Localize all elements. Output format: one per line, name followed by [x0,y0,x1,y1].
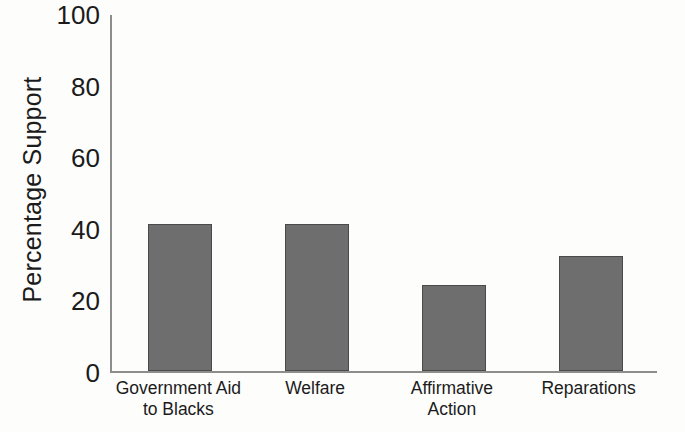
y-axis-tick-label: 0 [4,360,100,386]
bar-chart: Percentage Support 020406080100 Governme… [0,0,685,432]
y-axis-tick-label: 100 [4,2,100,28]
bar [422,285,486,371]
x-axis-tick-label-line: Reparations [512,378,665,399]
x-axis-tick-label-line: Action [376,399,529,420]
bar [148,224,212,371]
x-axis-tick-label-line: Government Aid [102,378,255,399]
plot-area [110,15,657,373]
x-axis-tick-label: AffirmativeAction [376,378,529,420]
y-axis-tick-label: 20 [4,288,100,314]
x-axis-tick-label-line: Affirmative [376,378,529,399]
x-axis-tick-label-line: Welfare [239,378,392,399]
bar [285,224,349,371]
x-axis-tick-label: Welfare [239,378,392,399]
x-axis-tick-label: Reparations [512,378,665,399]
x-axis-tick-labels: Government Aidto BlacksWelfareAffirmativ… [110,378,657,432]
y-axis-tick-label: 40 [4,217,100,243]
x-axis-tick-label-line: to Blacks [102,399,255,420]
y-axis-tick-label: 80 [4,74,100,100]
y-axis-tick-labels: 020406080100 [0,0,100,432]
bar [559,256,623,371]
y-axis-tick-label: 60 [4,145,100,171]
x-axis-tick-label: Government Aidto Blacks [102,378,255,420]
bars-layer [112,15,657,371]
